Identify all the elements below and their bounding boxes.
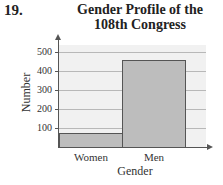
x-axis [58,147,208,148]
y-axis [58,36,59,148]
y-axis-arrow-icon [55,34,61,40]
problem-number: 19. [4,2,23,19]
x-tick-label-men: Men [129,151,179,163]
chart-title-line2: 108th Congress [60,17,220,32]
bar-men [122,60,186,147]
y-axis-title: Number [19,63,34,123]
y-tick-label: 100 [20,123,52,133]
chart-title-line1: Gender Profile of the [60,2,220,17]
chart-title: Gender Profile of the 108th Congress [60,2,220,32]
x-tick-label-women: Women [66,151,116,163]
x-axis-title: Gender [100,164,170,179]
y-tick-label: 500 [20,47,52,57]
bar-women [59,133,123,147]
gridline-500 [59,52,206,53]
x-axis-arrow-icon [207,144,213,150]
